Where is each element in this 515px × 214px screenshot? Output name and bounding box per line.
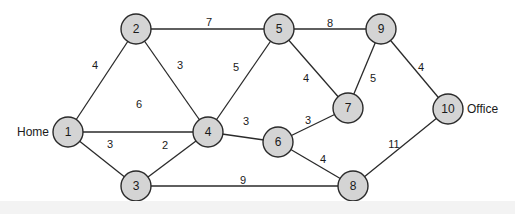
edge-weight-label: 5 [370,72,376,84]
node-label: 10 [441,102,455,116]
edge-weight-label: 2 [162,139,168,151]
edge-2-4 [136,29,208,132]
edge-weight-label: 3 [305,114,311,126]
node-9: 9 [366,14,396,44]
node-label: 4 [205,125,212,139]
edge-weight-label: 4 [320,153,326,165]
edge-weight-label: 11 [388,138,399,150]
edge-weight-label: 4 [92,59,98,71]
node-tags-layer: HomeOffice [17,102,498,139]
edge-weight-label: 3 [177,59,183,71]
edge-weight-label: 6 [136,98,142,110]
node-1: 1 [53,117,83,147]
node-8: 8 [338,171,368,201]
node-10: 10 [433,94,463,124]
node-5: 5 [264,14,294,44]
node-label: 7 [345,101,352,115]
edge-weight-label: 8 [327,17,333,29]
edge-5-7 [279,29,348,108]
node-label: 9 [378,22,385,36]
node-4: 4 [193,117,223,147]
node-6: 6 [263,127,293,157]
edge-weight-label: 9 [240,174,246,186]
graph-diagram: 46337295384345411 12345678910 HomeOffice [0,0,515,214]
edge-weight-label: 3 [243,115,249,127]
edge-weight-label: 3 [107,138,113,150]
node-label: 2 [133,22,140,36]
node-label: 3 [133,179,140,193]
nodes-layer: 12345678910 [53,14,463,201]
edge-weight-label: 4 [303,72,309,84]
bottom-band [0,201,515,214]
edge-8-10 [353,109,448,186]
edge-weight-label: 7 [206,16,212,28]
node-3: 3 [121,171,151,201]
node-label: 1 [65,125,72,139]
node-label: 6 [275,135,282,149]
edge-weight-label: 5 [233,61,239,73]
home-label: Home [17,125,49,139]
node-7: 7 [333,93,363,123]
node-label: 8 [350,179,357,193]
edges-layer [68,29,448,186]
node-label: 5 [276,22,283,36]
graph-canvas: 46337295384345411 12345678910 HomeOffice [0,0,515,214]
edge-weight-label: 4 [418,61,424,73]
edge-1-2 [68,29,136,132]
node-2: 2 [121,14,151,44]
office-label: Office [467,102,498,116]
